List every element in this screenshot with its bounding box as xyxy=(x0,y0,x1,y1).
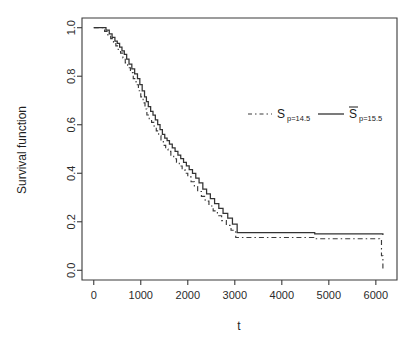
x-tick-label: 6000 xyxy=(364,289,388,301)
y-tick-label: 0.4 xyxy=(65,166,77,181)
chart-canvas: 0100020003000400050006000 0.00.20.40.60.… xyxy=(0,0,420,344)
survival-function-chart: 0100020003000400050006000 0.00.20.40.60.… xyxy=(0,0,420,344)
x-tick-label: 0 xyxy=(91,289,97,301)
x-tick-label: 1000 xyxy=(129,289,153,301)
y-tick-label: 0.2 xyxy=(65,214,77,229)
legend-label-solid-symbol: S xyxy=(349,107,357,121)
legend-label-dashed-symbol: S xyxy=(277,107,285,121)
x-tick-label: 3000 xyxy=(223,289,247,301)
chart-background xyxy=(0,0,420,344)
y-tick-label: 0.0 xyxy=(65,263,77,278)
y-tick-label: 0.8 xyxy=(65,69,77,84)
x-tick-label: 4000 xyxy=(270,289,294,301)
y-tick-label: 1.0 xyxy=(65,20,77,35)
x-tick-label: 2000 xyxy=(176,289,200,301)
y-axis-title: Survival function xyxy=(15,106,29,194)
legend-label-solid-subscript: p=15.5 xyxy=(359,114,382,123)
y-tick-label: 0.6 xyxy=(65,117,77,132)
legend-label-dashed-subscript: p=14.5 xyxy=(287,114,310,123)
x-tick-label: 5000 xyxy=(317,289,341,301)
